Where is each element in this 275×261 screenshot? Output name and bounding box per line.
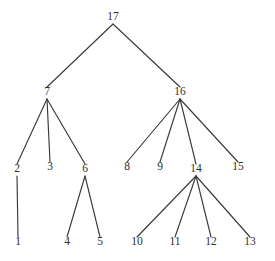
tree-node-2: 2 — [14, 162, 20, 174]
tree-node-13: 13 — [244, 235, 256, 247]
diagram-background — [0, 0, 275, 261]
tree-node-11: 11 — [169, 235, 180, 247]
tree-node-6: 6 — [82, 162, 88, 174]
tree-node-16: 16 — [174, 85, 186, 97]
tree-node-1: 1 — [15, 235, 21, 247]
tree-diagram: 1771623689141514510111213 — [0, 0, 275, 261]
tree-node-17: 17 — [107, 10, 119, 22]
tree-node-10: 10 — [131, 235, 143, 247]
tree-node-8: 8 — [124, 160, 130, 172]
tree-node-9: 9 — [157, 160, 163, 172]
tree-node-14: 14 — [190, 162, 202, 174]
tree-node-4: 4 — [64, 235, 70, 247]
tree-node-12: 12 — [205, 235, 217, 247]
tree-node-7: 7 — [44, 85, 50, 97]
tree-node-5: 5 — [97, 235, 103, 247]
tree-node-15: 15 — [232, 160, 244, 172]
tree-node-3: 3 — [47, 160, 53, 172]
